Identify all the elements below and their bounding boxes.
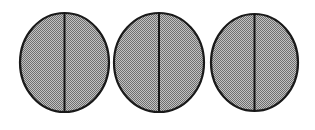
circle-group-1 bbox=[20, 13, 109, 112]
three-circles-diagram bbox=[0, 0, 315, 130]
circle-group-3 bbox=[211, 14, 298, 111]
circle-group-2 bbox=[114, 13, 204, 112]
figure-canvas: Three bisected circles Row of three iden… bbox=[0, 0, 315, 130]
